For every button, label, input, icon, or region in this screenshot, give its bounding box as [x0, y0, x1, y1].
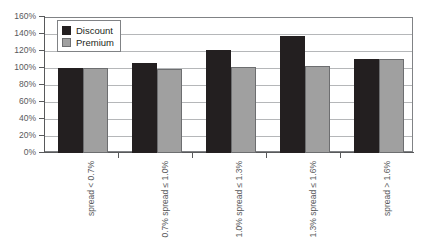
- y-tick-mark: [39, 33, 44, 34]
- x-category-label-4: spread > 1.6%: [383, 161, 392, 216]
- bar-premium-4: [379, 59, 404, 153]
- bar-discount-2: [206, 50, 231, 153]
- x-category-label-2: 1.0% spread ≤ 1.3%: [235, 161, 244, 238]
- bar-discount-0: [58, 68, 83, 153]
- legend-item-discount: Discount: [62, 24, 114, 36]
- y-tick-label: 0%: [0, 148, 36, 157]
- x-tick-mark: [192, 153, 193, 158]
- x-category-label-3: 1.3% spread ≤ 1.6%: [309, 161, 318, 238]
- legend-item-premium: Premium: [62, 36, 114, 48]
- legend-swatch-premium-icon: [62, 38, 71, 47]
- bar-discount-3: [280, 36, 305, 153]
- y-tick-mark: [39, 16, 44, 17]
- y-tick-mark: [39, 84, 44, 85]
- bar-chart: 160% 140% 120% 100% 80% 60% 40% 20% 0% s…: [0, 0, 427, 245]
- y-tick-label: 120%: [0, 46, 36, 55]
- bar-premium-0: [83, 68, 108, 153]
- bar-discount-1: [132, 63, 157, 153]
- y-tick-label: 60%: [0, 97, 36, 106]
- y-tick-mark: [39, 152, 44, 153]
- x-tick-mark: [340, 153, 341, 158]
- legend-label-premium: Premium: [76, 37, 114, 48]
- y-tick-mark: [39, 67, 44, 68]
- y-tick-label: 20%: [0, 131, 36, 140]
- bar-discount-4: [354, 59, 379, 153]
- legend-label-discount: Discount: [76, 25, 113, 36]
- y-tick-label: 100%: [0, 63, 36, 72]
- y-tick-mark: [39, 135, 44, 136]
- y-tick-label: 40%: [0, 114, 36, 123]
- bar-premium-3: [305, 66, 330, 153]
- y-tick-mark: [39, 50, 44, 51]
- bar-premium-1: [157, 69, 182, 153]
- y-tick-label: 140%: [0, 29, 36, 38]
- bar-premium-2: [231, 67, 256, 153]
- chart-legend: Discount Premium: [57, 20, 121, 52]
- x-category-label-0: spread < 0.7%: [87, 161, 96, 216]
- legend-swatch-discount-icon: [62, 26, 71, 35]
- x-tick-mark: [118, 153, 119, 158]
- y-tick-mark: [39, 101, 44, 102]
- y-tick-label: 160%: [0, 12, 36, 21]
- y-axis: [44, 16, 45, 153]
- y-tick-label: 80%: [0, 80, 36, 89]
- y-tick-mark: [39, 118, 44, 119]
- x-category-label-1: 0.7% spread ≤ 1.0%: [161, 161, 170, 238]
- x-tick-mark: [266, 153, 267, 158]
